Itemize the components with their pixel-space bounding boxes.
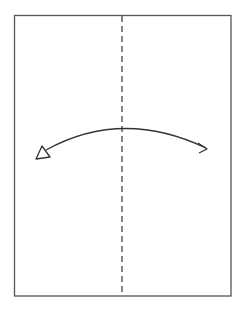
fold-diagram: [0, 0, 246, 313]
